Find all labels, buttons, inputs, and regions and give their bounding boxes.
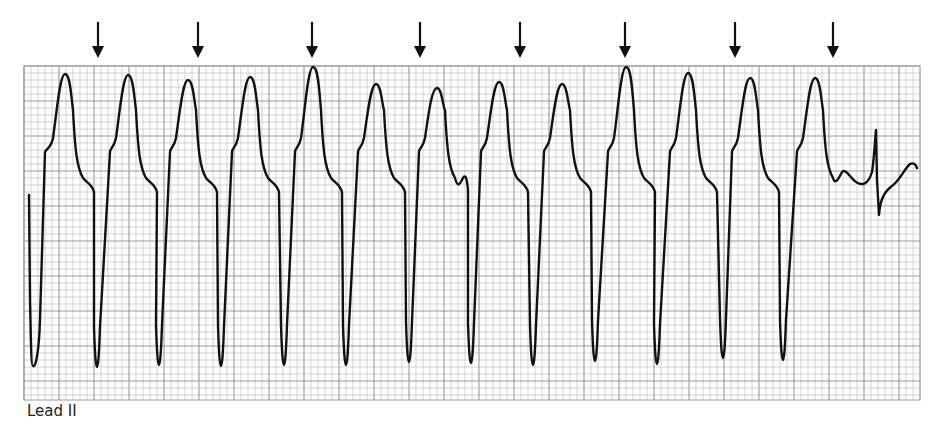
lead-label: Lead II [27,402,77,420]
down-arrow-icon [619,46,631,58]
ecg-trace [29,67,917,367]
p-wave-arrows [92,22,839,58]
down-arrow-icon [92,46,104,58]
down-arrow-icon [827,46,839,58]
down-arrow-icon [514,46,526,58]
down-arrow-icon [729,46,741,58]
down-arrow-icon [414,46,426,58]
down-arrow-icon [192,46,204,58]
ecg-rhythm-strip [0,0,947,426]
down-arrow-icon [306,46,318,58]
